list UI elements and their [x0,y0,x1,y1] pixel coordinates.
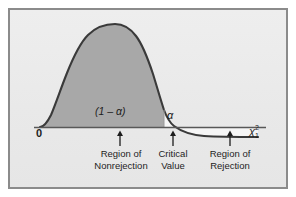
rejection-area-label: α [167,110,173,122]
nonrejection-area-label: (1 – α) [95,106,126,117]
caption-line-2: Value [145,160,201,172]
pointer-arrow-critical-value [170,131,176,147]
caption-region-of-rejection: Region of Rejection [197,148,263,171]
axis-variable-label: χ21 [249,124,259,139]
caption-line-1: Region of [197,148,263,160]
caption-critical-value: Critical Value [145,148,201,171]
chi-subscript: 1 [255,132,259,139]
figure-root: 0 (1 – α) α χ21 Region of Nonrejection C… [0,0,296,197]
rejection-area-shading [164,110,258,137]
chi-superscript: 2 [255,124,259,131]
caption-line-2: Rejection [197,160,263,172]
figure-frame: 0 (1 – α) α χ21 Region of Nonrejection C… [8,8,288,189]
axis-origin-label: 0 [36,128,42,140]
pointer-arrow-nonrejection [117,131,123,147]
caption-line-1: Critical [145,148,201,160]
